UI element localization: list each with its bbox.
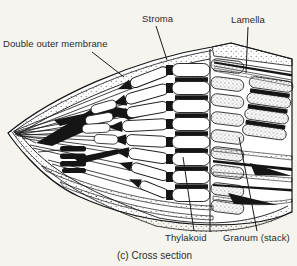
- label-granum: Granum (stack): [223, 232, 290, 243]
- label-stroma: Stroma: [142, 13, 173, 24]
- leader-line-double-outer-membrane: [92, 52, 124, 77]
- label-thylakoid: Thylakoid: [165, 232, 207, 243]
- figure-panel: Stroma Lamella Double outer membrane Thy…: [0, 0, 297, 266]
- label-lamella: Lamella: [231, 14, 265, 25]
- label-double-outer-membrane: Double outer membrane: [3, 38, 108, 49]
- leader-line-stroma: [156, 26, 167, 60]
- figure-caption: (c) Cross section: [117, 250, 192, 261]
